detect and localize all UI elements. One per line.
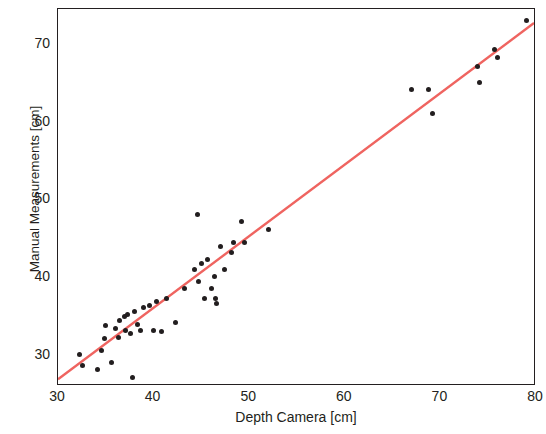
- data-point: [141, 305, 146, 310]
- y-tick-label: 30: [0, 346, 50, 362]
- data-point: [159, 329, 164, 334]
- data-point: [113, 326, 118, 331]
- y-tick-label: 70: [0, 35, 50, 51]
- data-point: [147, 303, 152, 308]
- x-tick-label: 40: [145, 388, 161, 404]
- data-point: [199, 261, 204, 266]
- x-tick-label: 50: [240, 388, 256, 404]
- data-point: [164, 296, 169, 301]
- y-tick-label: 40: [0, 268, 50, 284]
- data-point: [128, 331, 133, 336]
- data-point: [195, 212, 200, 217]
- x-axis-label: Depth Camera [cm]: [57, 409, 535, 425]
- data-point: [135, 322, 140, 327]
- y-axis-label: Manual Measurements [cm]: [27, 89, 42, 289]
- data-point: [218, 244, 223, 249]
- data-point: [205, 257, 210, 262]
- plot-area: [57, 8, 535, 385]
- x-tick-label: 60: [336, 388, 352, 404]
- data-point: [173, 320, 178, 325]
- data-point: [130, 375, 135, 380]
- data-point: [430, 111, 435, 116]
- data-point: [213, 296, 218, 301]
- fit-line: [58, 9, 534, 384]
- data-point: [182, 286, 187, 291]
- data-point: [117, 318, 122, 323]
- data-point: [196, 279, 201, 284]
- x-tick-label: 80: [527, 388, 543, 404]
- data-point: [222, 267, 227, 272]
- data-point: [495, 55, 500, 60]
- data-point: [154, 299, 159, 304]
- data-point: [242, 240, 247, 245]
- y-tick-label: 50: [0, 190, 50, 206]
- data-point: [229, 250, 234, 255]
- y-tick-label: 60: [0, 113, 50, 129]
- scatter-chart: 304050607080 3040506070 Depth Camera [cm…: [0, 0, 546, 434]
- x-tick-label: 70: [432, 388, 448, 404]
- data-point: [132, 309, 137, 314]
- x-tick-label: 30: [49, 388, 65, 404]
- data-point: [95, 367, 100, 372]
